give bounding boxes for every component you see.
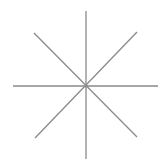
star-diagram (0, 0, 163, 162)
center-point (85, 85, 88, 88)
